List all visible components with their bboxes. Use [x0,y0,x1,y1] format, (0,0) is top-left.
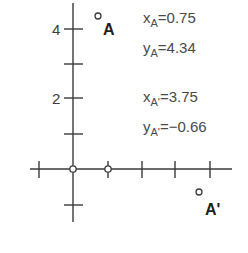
annotation-xa-prime: xA'=3.75 [143,88,198,108]
annotation-xa: xA=0.75 [143,9,196,29]
coordinate-diagram: 4 2 A A' xA=0.75 yA=4.34 xA'=3.75 yA'=−0… [0,0,248,253]
point-a-prime-marker [196,189,202,195]
point-a-prime-label: A' [205,201,220,218]
y-tick-label-4: 4 [52,21,60,38]
annotation-ya-prime: yA'=−0.66 [143,118,207,138]
point-a-label: A [103,21,115,38]
origin-marker [70,166,76,172]
unit-x-marker [105,166,111,172]
annotation-ya: yA=4.34 [143,39,196,59]
point-a-marker [95,13,101,19]
y-tick-label-2: 2 [52,90,60,107]
